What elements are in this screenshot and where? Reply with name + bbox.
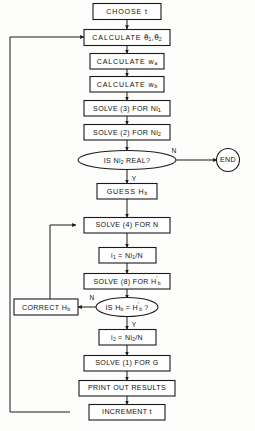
inner-loop-path [50,225,76,299]
node-decision-is-hb-equal-label: IS Hb = H′b ? [105,301,148,311]
node-i1-equation[interactable]: i1 = Ni1/N [99,248,156,264]
node-solve2[interactable]: SOLVE (2) FOR Ni2 [84,125,170,141]
loop-group [10,37,84,412]
edge-label-yes-is-ni2-real: Y [132,175,137,182]
node-solve4-label: SOLVE (4) FOR N [95,221,158,229]
node-solve2-label: SOLVE (2) FOR Ni2 [93,128,161,136]
node-increment-t[interactable]: INCREMENT t [89,405,165,421]
node-solve3[interactable]: SOLVE (3) FOR Ni1 [84,101,170,117]
node-solve3-label: SOLVE (3) FOR Ni1 [93,104,161,112]
edge-label-no-is-ni2-real: N [171,147,176,154]
node-decision-is-ni2-real-label: IS Ni2 REAL? [104,156,151,164]
node-choose-t[interactable]: CHOOSE t [93,4,161,20]
node-solve8[interactable]: SOLVE (8) FOR H′b [84,274,170,290]
edge-label-no-is-hb-equal: N [89,294,94,301]
edge-label-yes-is-hb-equal: Y [132,321,137,328]
node-i1-equation-label: i1 = Ni1/N [111,251,143,259]
node-solve8-label: SOLVE (8) FOR H′b [94,275,161,285]
node-print-out-results-label: PRINT OUT RESULTS [88,384,166,392]
node-print-out-results[interactable]: PRINT OUT RESULTS [79,381,175,397]
node-end-label: END [220,156,236,164]
node-correct-hb-label: CORRECT Hb [22,303,70,311]
node-calculate-wa-label: CALCULATE wa [97,57,158,65]
node-increment-t-label: INCREMENT t [102,408,152,416]
node-choose-t-label: CHOOSE t [106,8,148,16]
node-guess-hb-label: GUESS Hb [107,187,148,195]
node-guess-hb[interactable]: GUESS Hb [97,184,157,200]
node-i2-equation[interactable]: i2 = Ni2/N [99,330,156,346]
node-i2-equation-label: i2 = Ni2/N [111,333,143,341]
node-calculate-theta-label: CALCULATE θ1,θ2 [92,33,161,42]
node-decision-is-hb-equal[interactable]: IS Hb = H′b ? [96,298,158,317]
node-solve1[interactable]: SOLVE (1) FOR G [84,356,170,372]
node-end[interactable]: END [217,149,240,172]
node-solve1-label: SOLVE (1) FOR G [95,359,158,367]
node-calculate-wa[interactable]: CALCULATE wa [90,54,164,70]
flowchart-diagram: CHOOSE t CALCULATE θ1,θ2 CALCULATE wa CA… [0,0,255,431]
node-correct-hb[interactable]: CORRECT Hb [14,299,78,315]
node-calculate-theta[interactable]: CALCULATE θ1,θ2 [84,30,170,46]
flowchart-canvas: CHOOSE t CALCULATE θ1,θ2 CALCULATE wa CA… [0,0,255,431]
node-decision-is-ni2-real[interactable]: IS Ni2 REAL? [78,151,176,170]
node-calculate-wb[interactable]: CALCULATE wb [90,77,164,93]
node-calculate-wb-label: CALCULATE wb [97,80,158,88]
node-solve4[interactable]: SOLVE (4) FOR N [84,218,170,234]
